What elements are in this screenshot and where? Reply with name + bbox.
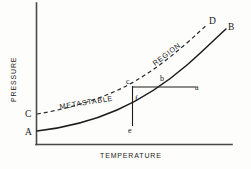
metastable-annotation: METASTABLE: [59, 94, 114, 111]
phase-diagram-figure: TEMPERATURE PRESSURE METASTABLE REGION A…: [0, 0, 251, 169]
phase-diagram-svg: TEMPERATURE PRESSURE METASTABLE REGION A…: [0, 0, 251, 169]
curve-ab-solid: [37, 29, 226, 131]
y-axis-label: PRESSURE: [10, 57, 17, 102]
label-point-D: D: [209, 16, 216, 26]
label-point-c: c: [126, 77, 130, 86]
x-axis-label: TEMPERATURE: [100, 152, 162, 159]
label-point-A: A: [25, 127, 32, 137]
label-point-C: C: [25, 109, 31, 119]
label-point-a: a: [195, 83, 199, 92]
region-annotation: REGION: [151, 41, 183, 68]
label-point-f: f: [135, 94, 138, 103]
label-point-e: e: [128, 126, 132, 135]
label-point-b: b: [160, 74, 164, 83]
label-point-B: B: [228, 22, 234, 32]
